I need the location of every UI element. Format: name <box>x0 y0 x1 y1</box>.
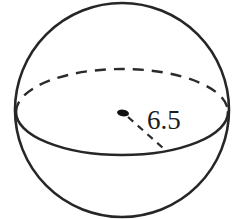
sphere-diagram-canvas <box>0 0 241 219</box>
equator-front-arc-solid <box>16 112 228 155</box>
sphere-figure: 6.5 <box>0 0 241 219</box>
equator-back-arc-dashed <box>16 69 228 112</box>
center-point-dot <box>117 109 130 118</box>
radius-measurement-label: 6.5 <box>147 107 181 134</box>
